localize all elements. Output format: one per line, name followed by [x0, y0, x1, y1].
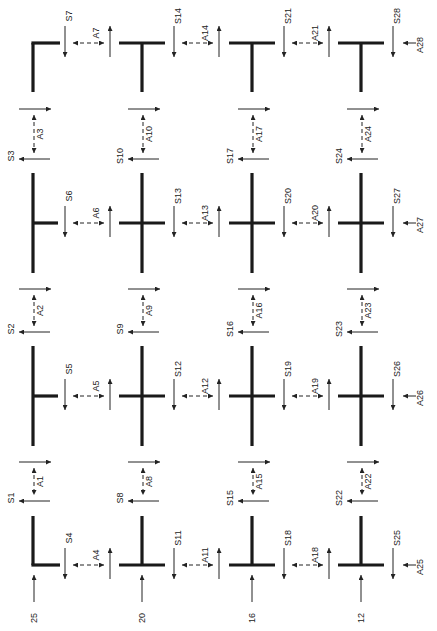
s-label: S11 — [173, 530, 183, 545]
s-label: S13 — [173, 188, 183, 204]
joint-tee-up — [229, 516, 275, 565]
s-label: S7 — [64, 10, 74, 21]
a-label: A18 — [310, 547, 320, 563]
a-label: A14 — [200, 25, 210, 41]
a-label: A9 — [144, 305, 154, 316]
bottom-load-label: 12 — [356, 613, 366, 623]
a-label: A11 — [200, 547, 210, 562]
joint-cross — [119, 346, 165, 446]
a-label: A12 — [200, 378, 210, 394]
s-label: S6 — [64, 190, 74, 201]
s-label: S28 — [392, 8, 402, 24]
s-label: S18 — [283, 530, 293, 546]
s-label: S19 — [283, 361, 293, 377]
a-label: A15 — [254, 473, 264, 489]
joint-cross — [338, 173, 384, 273]
joint-cross — [229, 346, 275, 446]
a-label: A3 — [35, 128, 45, 139]
a-label: A27 — [415, 217, 425, 233]
joint-tee-down — [229, 43, 275, 92]
joint-tee-up — [119, 516, 165, 565]
joint-tee-up — [338, 516, 384, 565]
joint-cross — [338, 346, 384, 446]
s-label: S23 — [334, 321, 344, 337]
a-label: A13 — [200, 205, 210, 221]
s-label: S2 — [6, 323, 16, 334]
s-label: S8 — [115, 492, 125, 503]
s-label: S22 — [334, 490, 344, 506]
s-label: S17 — [225, 148, 235, 164]
beam-layer — [31, 43, 384, 565]
a-label: A4 — [91, 549, 101, 560]
a-label: A21 — [310, 25, 320, 41]
a-label: A22 — [363, 473, 373, 489]
a-label: A25 — [415, 559, 425, 575]
joint-tee-down — [338, 43, 384, 92]
s-label: S5 — [64, 363, 74, 374]
s-label: S20 — [283, 188, 293, 204]
diagram-svg: S7A7S14A14S21A21S28A28S6A6S13A13S20A20S2… — [0, 0, 437, 631]
a-label: A1 — [35, 476, 45, 487]
s-label: S15 — [225, 490, 235, 506]
arrow-layer — [19, 26, 416, 602]
joint-tee-right — [33, 173, 58, 273]
bottom-load-label: 25 — [29, 613, 39, 623]
structural-diagram: S7A7S14A14S21A21S28A28S6A6S13A13S20A20S2… — [0, 0, 437, 631]
bottom-load-label: 16 — [247, 613, 257, 623]
a-label: A20 — [310, 205, 320, 221]
a-label: A5 — [91, 380, 101, 391]
s-label: S24 — [334, 148, 344, 164]
a-label: A16 — [254, 302, 264, 318]
s-label: S12 — [173, 361, 183, 377]
s-label: S14 — [173, 8, 183, 24]
s-label: S3 — [6, 150, 16, 161]
joint-corner-bottom-left — [31, 516, 60, 565]
s-label: S9 — [115, 323, 125, 334]
s-label: S1 — [6, 492, 16, 503]
a-label: A17 — [254, 126, 264, 142]
a-label: A24 — [363, 126, 373, 142]
bottom-load-label: 20 — [137, 613, 147, 623]
a-label: A2 — [35, 305, 45, 316]
s-label: S16 — [225, 321, 235, 337]
s-label: S27 — [392, 188, 402, 204]
joint-tee-down — [119, 43, 165, 92]
a-label: A10 — [144, 126, 154, 142]
a-label: A28 — [415, 37, 425, 53]
s-label: S4 — [64, 532, 74, 543]
s-label: S21 — [283, 8, 293, 24]
a-label: A26 — [415, 390, 425, 406]
s-label: S25 — [392, 530, 402, 546]
s-label: S26 — [392, 361, 402, 377]
joint-corner-top-left — [31, 43, 60, 92]
a-label: A23 — [363, 302, 373, 318]
s-label: S10 — [115, 148, 125, 164]
joint-cross — [229, 173, 275, 273]
a-label: A19 — [310, 378, 320, 394]
a-label: A7 — [91, 27, 101, 38]
joint-cross — [119, 173, 165, 273]
a-label: A8 — [144, 476, 154, 487]
a-label: A6 — [91, 207, 101, 218]
joint-tee-right — [33, 346, 58, 446]
